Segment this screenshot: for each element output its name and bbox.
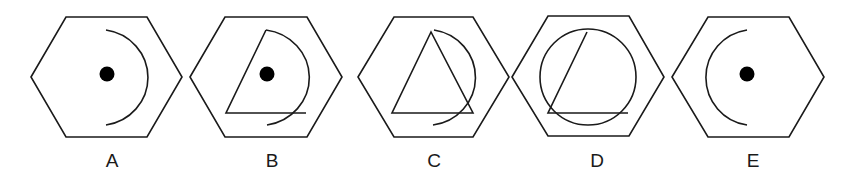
circle — [540, 29, 636, 125]
option-b[interactable]: B — [190, 17, 342, 171]
option-e[interactable]: E — [672, 17, 824, 171]
dot — [260, 67, 275, 82]
option-label: D — [590, 150, 604, 171]
option-label: E — [747, 150, 760, 171]
option-label: A — [106, 150, 119, 171]
hexagon-outline — [512, 16, 664, 136]
option-a[interactable]: A — [31, 17, 182, 171]
dot — [100, 67, 115, 82]
figure-options: A B C D E — [0, 0, 856, 180]
dot — [740, 67, 755, 82]
hexagon-outline — [358, 17, 509, 137]
option-label: C — [427, 150, 441, 171]
open-triangle — [548, 32, 628, 113]
option-d[interactable]: D — [512, 16, 664, 171]
option-label: B — [266, 150, 279, 171]
option-c[interactable]: C — [358, 17, 509, 171]
